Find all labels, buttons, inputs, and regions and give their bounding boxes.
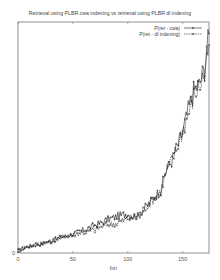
- plus-marker-icon: [204, 80, 206, 82]
- plus-marker-icon: [107, 215, 109, 217]
- plus-marker-icon: [120, 214, 122, 216]
- x-marker-icon: [87, 230, 89, 232]
- x-marker-icon: [90, 230, 92, 232]
- x-marker-icon: [118, 220, 120, 222]
- plus-marker-icon: [114, 219, 116, 221]
- x-marker-icon: [107, 224, 109, 226]
- x-tick-label: 100: [123, 256, 132, 262]
- plus-marker-icon: [98, 223, 100, 225]
- plus-marker-icon: [21, 246, 23, 248]
- x-marker-icon: [125, 218, 127, 220]
- line-chart: 0501001500binP(ret - cwa)P(ret - dl inde…: [0, 0, 220, 280]
- plus-marker-icon: [111, 216, 113, 218]
- series-line-0: [18, 29, 209, 251]
- x-axis-label: bin: [110, 265, 117, 271]
- plus-marker-icon: [136, 218, 138, 220]
- plus-marker-icon: [109, 217, 111, 219]
- plus-marker-icon: [184, 118, 186, 120]
- x-marker-icon: [83, 233, 85, 235]
- plus-marker-icon: [182, 133, 184, 135]
- y-tick-label: 0: [12, 250, 15, 256]
- plus-marker-icon: [208, 33, 210, 35]
- plus-marker-icon: [54, 236, 56, 238]
- plus-marker-icon: [138, 214, 140, 216]
- x-tick-label: 150: [178, 256, 187, 262]
- plus-marker-icon: [193, 81, 195, 83]
- x-marker-icon: [101, 225, 103, 227]
- plus-marker-icon: [171, 166, 173, 168]
- plus-marker-icon: [122, 211, 124, 213]
- x-marker-icon: [144, 210, 146, 212]
- legend-plus-marker-icon: [192, 27, 194, 29]
- plus-marker-icon: [125, 214, 127, 216]
- plus-marker-icon: [118, 218, 120, 220]
- x-tick-label: 0: [16, 256, 19, 262]
- x-tick-label: 50: [70, 256, 76, 262]
- plot-frame: [18, 22, 209, 253]
- plus-marker-icon: [195, 85, 197, 87]
- x-marker-icon: [85, 233, 87, 235]
- plus-marker-icon: [78, 230, 80, 232]
- plus-marker-icon: [76, 229, 78, 231]
- plus-marker-icon: [116, 218, 118, 220]
- series-line-1: [18, 45, 209, 252]
- legend-label-1: P(ret - dl indexing): [139, 31, 180, 37]
